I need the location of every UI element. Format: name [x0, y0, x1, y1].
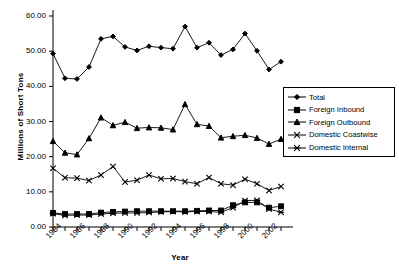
data-point-triangle: [86, 136, 91, 141]
square-marker-icon: [287, 105, 307, 115]
series-foreign-outbound: [50, 101, 283, 156]
legend-item-label: Total: [309, 94, 325, 102]
data-point-x: [147, 173, 152, 178]
data-point-diamond: [99, 36, 104, 41]
data-point-triangle: [170, 127, 175, 132]
data-point-x: [99, 173, 104, 178]
data-point-square: [294, 107, 299, 112]
series-total: [51, 24, 284, 81]
legend-item-foreign-inbound: Foreign Inbound: [287, 104, 392, 117]
legend-item-domestic-internal: Domestic Internal: [287, 141, 392, 154]
data-point-diamond: [267, 67, 272, 72]
data-point-triangle: [122, 119, 127, 124]
data-point-diamond: [135, 48, 140, 53]
data-point-triangle: [206, 123, 211, 128]
data-point-triangle: [194, 122, 199, 127]
chart-series-group: [50, 24, 284, 218]
data-point-x: [243, 177, 248, 182]
y-axis-tick-label: 30.00: [12, 117, 46, 126]
legend-item-label: Foreign Outbound: [309, 119, 370, 127]
data-point-x: [255, 181, 260, 186]
legend-item-foreign-outbound: Foreign Outbound: [287, 116, 392, 129]
data-point-triangle: [230, 133, 235, 138]
data-point-diamond: [183, 24, 188, 29]
data-point-x: [267, 188, 272, 193]
data-point-asterisk: [278, 210, 284, 215]
data-point-diamond: [147, 44, 152, 49]
data-point-x: [279, 184, 284, 189]
data-point-triangle: [50, 138, 55, 143]
chart-container: Millions of Short Tons Year 0.0010.0020.…: [0, 0, 399, 270]
asterisk-marker-icon: [287, 143, 307, 153]
data-point-diamond: [51, 51, 56, 56]
data-point-triangle: [266, 141, 271, 146]
data-point-x: [111, 164, 116, 169]
legend-item-total: Total: [287, 91, 392, 104]
data-point-diamond: [279, 59, 284, 64]
data-point-triangle: [254, 135, 259, 140]
data-point-triangle: [182, 101, 187, 106]
y-axis-tick-label: 50.00: [12, 46, 46, 55]
legend-item-domestic-coastwise: Domestic Coastwise: [287, 129, 392, 142]
data-point-diamond: [159, 45, 164, 50]
y-axis-tick-label: 60.00: [12, 11, 46, 20]
series-line: [53, 104, 281, 154]
data-point-triangle: [98, 115, 103, 120]
legend-item-label: Domestic Coastwise: [309, 131, 378, 139]
y-axis-tick-label: 0.00: [12, 222, 46, 231]
triangle-marker-icon: [287, 117, 307, 127]
legend-item-label: Foreign Inbound: [309, 106, 364, 114]
data-point-triangle: [146, 125, 151, 130]
data-point-triangle: [242, 132, 247, 137]
data-point-diamond: [63, 76, 68, 81]
data-point-diamond: [294, 95, 299, 100]
series-domestic-internal: [50, 198, 284, 218]
data-point-diamond: [195, 45, 200, 50]
x-marker-icon: [287, 130, 307, 140]
series-foreign-inbound: [51, 200, 284, 216]
x-axis-title: Year: [120, 253, 240, 262]
chart-axes: [49, 10, 293, 231]
data-point-square: [279, 204, 284, 209]
series-domestic-coastwise: [51, 164, 284, 193]
data-point-triangle: [110, 123, 115, 128]
data-point-triangle: [134, 125, 139, 130]
data-point-x: [207, 175, 212, 180]
y-axis-tick-label: 20.00: [12, 152, 46, 161]
diamond-marker-icon: [287, 92, 307, 102]
y-axis-tick-label: 10.00: [12, 187, 46, 196]
data-point-triangle: [158, 125, 163, 130]
legend-item-label: Domestic Internal: [309, 144, 368, 152]
data-point-asterisk: [294, 145, 300, 150]
y-axis-tick-label: 40.00: [12, 81, 46, 90]
chart-legend: TotalForeign InboundForeign OutboundDome…: [283, 87, 395, 157]
data-point-diamond: [171, 46, 176, 51]
